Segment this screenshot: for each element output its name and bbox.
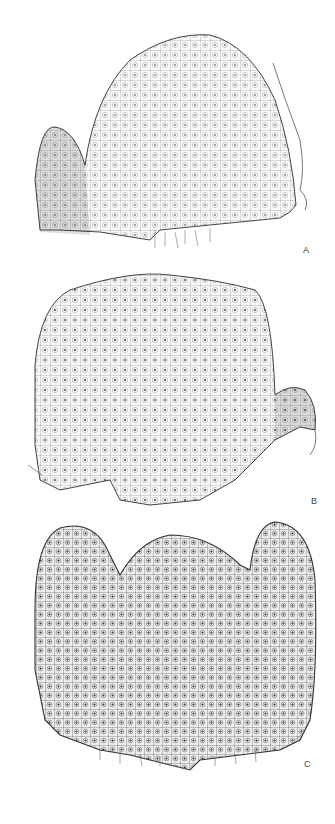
panel-a: A	[0, 0, 335, 265]
panel-label-c: C	[304, 759, 311, 769]
cell-tissue-drawing-b	[0, 265, 335, 520]
panel-label-a: A	[303, 245, 309, 255]
panel-b: B	[0, 265, 335, 520]
cell-tissue-drawing-a	[0, 0, 335, 265]
panel-label-b: B	[311, 496, 317, 506]
cell-tissue-drawing-c	[0, 520, 335, 824]
panel-c: C	[0, 520, 335, 824]
